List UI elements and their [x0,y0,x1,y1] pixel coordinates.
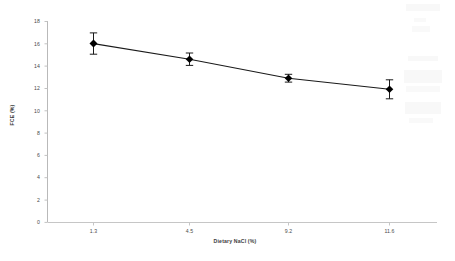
data-point-marker [90,40,98,48]
x-tick-label-4: 11.6 [375,228,405,234]
scan-artifacts [404,4,442,123]
line-chart-canvas [0,0,455,261]
data-point-marker [386,86,394,94]
y-tick-label-18: 18 [20,18,40,24]
x-tick-label-1: 1.3 [79,228,109,234]
data-point-marker [285,74,293,82]
x-axis-title: Dietary NaCl (%) [160,238,310,244]
y-tick-label-6: 6 [20,152,40,158]
y-tick-label-14: 14 [20,63,40,69]
y-tick-label-10: 10 [20,108,40,114]
data-line [94,44,390,90]
error-bars [90,33,393,99]
y-axis-title: FCE (%) [9,90,15,140]
y-tick-label-8: 8 [20,130,40,136]
y-tick-label-16: 16 [20,41,40,47]
y-tick-label-0: 0 [20,219,40,225]
y-tick-label-4: 4 [20,174,40,180]
data-point-marker [186,55,194,63]
x-tick-label-3: 9.2 [274,228,304,234]
chart-figure: 18 16 14 12 10 8 6 4 2 0 1.3 4.5 9.2 11.… [0,0,455,261]
y-tick-label-2: 2 [20,197,40,203]
x-tick-label-2: 4.5 [175,228,205,234]
y-tick-label-12: 12 [20,85,40,91]
